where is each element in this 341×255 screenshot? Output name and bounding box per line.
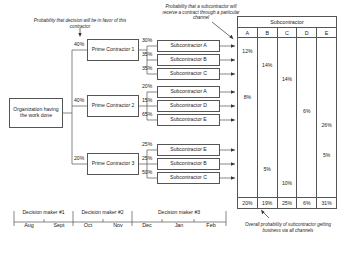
probability-tree-diagram: Probability that decision will be in fav…: [0, 0, 341, 255]
timeline: Decision maker #1 Decision maker #2 Deci…: [14, 208, 226, 238]
subcontractor-box-7: Subcontractor E: [157, 144, 220, 156]
joint-probability-2: 14%: [258, 62, 277, 68]
subcontractor-box-8: Subcontractor B: [157, 158, 220, 170]
table-header-b: B: [257, 28, 277, 38]
table-header-e: E: [317, 28, 337, 38]
table-column-d: 6%: [297, 38, 317, 198]
caption-channel-probability: Probability that a subcontractor will re…: [158, 4, 244, 21]
table-header-d: D: [297, 28, 317, 38]
subcontractor-probability-6: 65%: [142, 111, 152, 117]
subcontractor-probability-3: 35%: [142, 65, 152, 71]
prime-contractor-3-probability: 20%: [74, 155, 84, 161]
decision-maker-3-label: Decision maker #3: [132, 209, 226, 215]
joint-probability-9: 10%: [278, 180, 297, 186]
month-feb: Feb: [196, 222, 226, 228]
table-column-c: 14% 10%: [277, 38, 297, 198]
subcontractor-probability-4: 20%: [142, 83, 152, 89]
table-column-b: 14% 5%: [257, 38, 277, 198]
subcontractor-probability-9: 50%: [142, 169, 152, 175]
prime-contractor-3-box: Prime Contractor 3: [87, 153, 139, 175]
subcontractor-probability-5: 15%: [142, 97, 152, 103]
subcontractor-box-6: Subcontractor E: [157, 114, 220, 126]
decision-maker-1-label: Decision maker #1: [14, 209, 73, 215]
month-oct: Oct: [73, 222, 103, 228]
table-column-e: 26% 5%: [317, 38, 337, 198]
organization-box: Organization having the work done: [9, 98, 63, 128]
joint-probability-1: 12%: [238, 48, 257, 54]
table-total-a: 20%: [238, 198, 258, 209]
joint-probability-7: 5%: [317, 152, 336, 158]
month-sept: Sept: [44, 222, 74, 228]
subcontractor-box-2: Subcontractor B: [157, 54, 220, 66]
month-nov: Nov: [103, 222, 133, 228]
subcontractor-box-1: Subcontractor A: [157, 40, 220, 52]
subcontractor-box-9: Subcontractor C: [157, 172, 220, 184]
caption-decision-probability: Probability that decision will be in fav…: [28, 18, 132, 29]
subcontractor-probability-7: 25%: [142, 141, 152, 147]
subcontractor-box-5: Subcontractor D: [157, 100, 220, 112]
joint-probability-8: 5%: [258, 166, 277, 172]
prime-contractor-1-box: Prime Contractor 1: [87, 39, 139, 61]
subcontractor-probability-8: 25%: [142, 155, 152, 161]
joint-probability-3: 14%: [278, 76, 297, 82]
table-total-b: 19%: [257, 198, 277, 209]
subcontractor-probability-1: 30%: [142, 37, 152, 43]
joint-probability-5: 6%: [297, 108, 316, 114]
joint-probability-6: 26%: [317, 122, 336, 128]
table-total-c: 25%: [277, 198, 297, 209]
month-dec: Dec: [132, 222, 162, 228]
subcontractor-box-4: Subcontractor A: [157, 86, 220, 98]
month-jan: Jan: [164, 222, 194, 228]
table-header-c: C: [277, 28, 297, 38]
subcontractor-box-3: Subcontractor C: [157, 68, 220, 80]
table-total-d: 6%: [297, 198, 317, 209]
prime-contractor-2-probability: 40%: [74, 97, 84, 103]
caption-overall-probability: Overall probability of subcontractor get…: [238, 222, 338, 233]
table-column-a: 12% 8%: [238, 38, 258, 198]
prime-contractor-1-probability: 40%: [74, 41, 84, 47]
table-title: Subcontractor: [238, 17, 337, 28]
table-header-a: A: [238, 28, 258, 38]
prime-contractor-2-box: Prime Contractor 2: [87, 95, 139, 117]
subcontractor-results-table: Subcontractor A B C D E 12% 8% 14% 5%: [237, 16, 337, 209]
joint-probability-4: 8%: [238, 94, 257, 100]
subcontractor-probability-2: 35%: [142, 51, 152, 57]
table-total-e: 31%: [317, 198, 337, 209]
month-aug: Aug: [14, 222, 44, 228]
decision-maker-2-label: Decision maker #2: [73, 209, 132, 215]
